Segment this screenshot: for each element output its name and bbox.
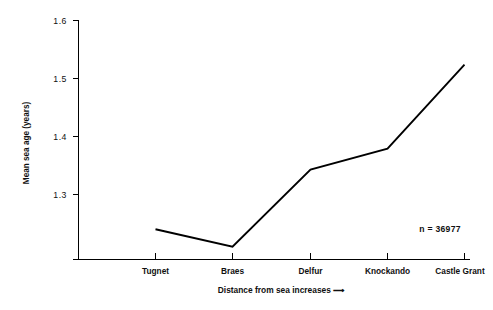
x-tick-label-castle-grant: Castle Grant	[435, 266, 485, 276]
y-tick-label-1-4: 1.4	[53, 132, 67, 142]
x-axis-title: Distance from sea increases ⟶	[218, 285, 345, 295]
x-tick-label-tugnet: Tugnet	[142, 266, 169, 276]
y-axis-title: Mean sea age (years)	[22, 102, 31, 185]
y-tick-label-1-6: 1.6	[53, 16, 67, 26]
y-tick-label-1-5: 1.5	[53, 74, 67, 84]
data-series-line	[156, 65, 465, 247]
sample-size-annotation: n = 36977	[419, 224, 461, 234]
chart-container: 1.6 1.5 1.4 1.3 Tugnet Braes Delfur Knoc…	[0, 0, 493, 310]
y-tick-label-1-3: 1.3	[53, 190, 67, 200]
x-tick-label-knockando: Knockando	[365, 266, 410, 276]
line-chart: 1.6 1.5 1.4 1.3 Tugnet Braes Delfur Knoc…	[0, 0, 493, 310]
x-tick-label-braes: Braes	[221, 266, 244, 276]
x-tick-label-delfur: Delfur	[299, 266, 324, 276]
